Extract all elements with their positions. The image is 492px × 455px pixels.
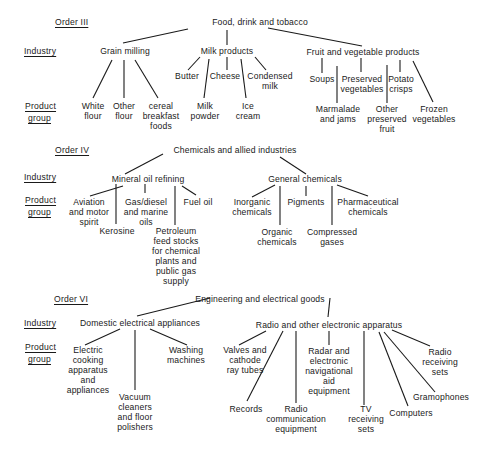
product-label: Product xyxy=(25,101,56,111)
industry-mineral-oil-refining: Mineral oil refining xyxy=(112,174,185,184)
product-gramophones: Gramophones xyxy=(413,392,469,402)
product-pharmaceutical-chemicals: Pharmaceutical chemicals xyxy=(337,197,398,217)
product-radio-receiving-sets: Radio receiving sets xyxy=(422,347,458,377)
industry-general-chemicals: General chemicals xyxy=(268,174,342,184)
product-organic-chemicals: Organic chemicals xyxy=(257,227,297,247)
product-aviation-motor-spirit: Aviation and motor spirit xyxy=(69,197,109,227)
industry-label: Industry xyxy=(24,46,56,56)
product-condensed-milk: Condensed milk xyxy=(247,71,292,91)
product-valves-cathode-ray-tubes: Valves and cathode ray tubes xyxy=(223,345,266,375)
product-preserved-vegetables: Preserved vegetables xyxy=(340,74,383,94)
order-vi-title: Engineering and electrical goods xyxy=(195,294,325,304)
group-label: group xyxy=(28,207,51,217)
product-frozen-vegetables: Frozen vegetables xyxy=(412,104,455,124)
product-compressed-gases: Compressed gases xyxy=(307,227,357,247)
product-cereal-breakfast-foods: cereal breakfast foods xyxy=(143,101,180,131)
product-white-flour: White flour xyxy=(82,101,105,121)
product-inorganic-chemicals: Inorganic chemicals xyxy=(232,197,272,217)
product-marmalade-jams: Marmalade and jams xyxy=(316,104,360,124)
order-iii-title: Food, drink and tobacco xyxy=(212,17,308,27)
product-electric-cooking-apparatus: Electric cooking apparatus and appliance… xyxy=(67,345,110,395)
product-radio-communication-equipment: Radio communication equipment xyxy=(266,404,326,434)
industry-milk-products: Milk products xyxy=(201,46,254,56)
group-label: group xyxy=(28,113,51,123)
order-iv-label: Order IV xyxy=(55,145,89,155)
product-kerosine: Kerosine xyxy=(99,226,134,236)
product-milk-powder: Milk powder xyxy=(190,101,219,121)
product-computers: Computers xyxy=(389,408,432,418)
product-soups: Soups xyxy=(309,74,334,84)
product-tv-receiving-sets: TV receiving sets xyxy=(348,404,384,434)
product-other-preserved-fruit: Other preserved fruit xyxy=(367,104,407,134)
industrial-classification-diagram: Order III Industry Product group Order I… xyxy=(0,0,492,455)
product-butter: Butter xyxy=(175,71,199,81)
industry-label: Industry xyxy=(24,172,56,182)
industry-domestic-electrical-appliances: Domestic electrical appliances xyxy=(80,318,200,328)
industry-fruit-vegetable-products: Fruit and vegetable products xyxy=(306,47,419,57)
product-label: Product xyxy=(25,195,56,205)
product-fuel-oil: Fuel oil xyxy=(184,197,213,207)
industry-grain-milling: Grain milling xyxy=(100,46,150,56)
product-gas-diesel-marine-oils: Gas/diesel and marine oils xyxy=(124,197,169,227)
product-other-flour: Other flour xyxy=(113,101,135,121)
order-iv-title: Chemicals and allied industries xyxy=(173,145,296,155)
product-cheese: Cheese xyxy=(210,71,241,81)
group-label: group xyxy=(28,354,51,364)
order-iii-label: Order III xyxy=(55,17,88,27)
industry-radio-electronic-apparatus: Radio and other electronic apparatus xyxy=(256,320,402,330)
product-radar-navigational-equipment: Radar and electronic navigational aid eq… xyxy=(305,346,353,396)
product-records: Records xyxy=(229,404,262,414)
product-washing-machines: Washing machines xyxy=(167,345,205,365)
product-vacuum-cleaners: Vacuum cleaners and floor polishers xyxy=(117,392,153,432)
product-label: Product xyxy=(25,342,56,352)
order-vi-label: Order VI xyxy=(54,294,88,304)
industry-label: Industry xyxy=(24,318,56,328)
product-potato-crisps: Potato crisps xyxy=(388,74,414,94)
product-ice-cream: Ice cream xyxy=(236,101,261,121)
product-petroleum-feed-stocks: Petroleum feed stocks for chemical plant… xyxy=(152,226,200,286)
product-pigments: Pigments xyxy=(287,197,324,207)
